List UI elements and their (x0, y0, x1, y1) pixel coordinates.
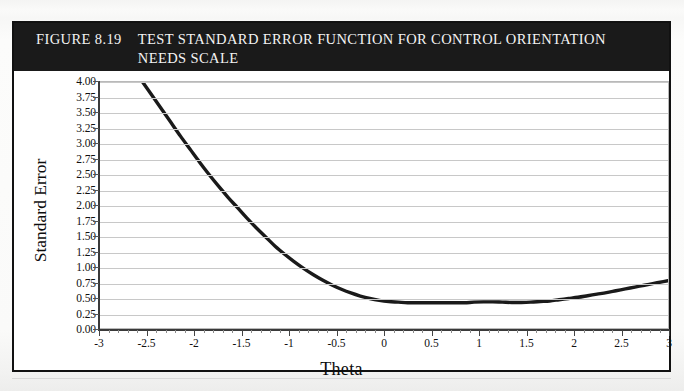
x-tick-minor (261, 330, 262, 333)
gridline-horizontal (100, 175, 668, 176)
x-tick-label: 0.5 (424, 337, 438, 349)
standard-error-curve (100, 82, 668, 328)
x-tick-mark (337, 330, 338, 336)
gridline-horizontal (100, 237, 668, 238)
gridline-horizontal (100, 268, 668, 269)
x-tick-minor (650, 330, 651, 333)
y-axis-tick-labels: 0.000.250.500.751.001.251.501.752.002.25… (54, 81, 96, 329)
y-tick-label: 0.50 (54, 292, 96, 304)
x-tick-minor (109, 330, 110, 333)
x-tick-minor (536, 330, 537, 333)
x-tick-minor (232, 330, 233, 333)
x-tick-minor (166, 330, 167, 333)
x-tick-minor (517, 330, 518, 333)
y-tick-mark (93, 236, 99, 237)
x-tick-minor (508, 330, 509, 333)
curve-path (143, 82, 668, 303)
figure-title: TEST STANDARD ERROR FUNCTION FOR CONTROL… (138, 30, 608, 68)
y-tick-label: 2.75 (54, 153, 96, 165)
y-tick-label: 3.75 (54, 91, 96, 103)
x-tick-label: 3 (666, 337, 672, 349)
x-tick-label: 2.5 (614, 337, 628, 349)
x-tick-minor (213, 330, 214, 333)
gridline-horizontal (100, 160, 668, 161)
y-tick-mark (93, 314, 99, 315)
x-axis-label: Theta (14, 359, 669, 380)
y-tick-label: 1.00 (54, 261, 96, 273)
x-tick-mark (384, 330, 385, 336)
chart-area: Standard Error 0.000.250.500.751.001.251… (14, 71, 669, 370)
y-tick-mark (93, 128, 99, 129)
y-tick-mark (93, 174, 99, 175)
x-tick-minor (137, 330, 138, 333)
y-tick-label: 3.50 (54, 106, 96, 118)
y-axis-label: Standard Error (28, 85, 54, 335)
gridline-horizontal (100, 113, 668, 114)
x-tick-minor (403, 330, 404, 333)
x-tick-label: -0.5 (327, 337, 345, 349)
plot-area (99, 81, 669, 329)
x-tick-mark (194, 330, 195, 336)
gridline-horizontal (100, 315, 668, 316)
x-tick-minor (356, 330, 357, 333)
y-tick-mark (93, 81, 99, 82)
x-tick-mark (432, 330, 433, 336)
gridline-horizontal (100, 129, 668, 130)
x-tick-mark (622, 330, 623, 336)
x-tick-minor (375, 330, 376, 333)
y-tick-label: 0.00 (54, 323, 96, 335)
x-tick-label: -1 (284, 337, 294, 349)
x-tick-minor (185, 330, 186, 333)
figure-number: FIGURE 8.19 (36, 30, 122, 48)
x-tick-minor (641, 330, 642, 333)
y-tick-label: 2.00 (54, 199, 96, 211)
y-tick-mark (93, 190, 99, 191)
x-tick-minor (299, 330, 300, 333)
x-tick-minor (128, 330, 129, 333)
x-tick-minor (251, 330, 252, 333)
x-tick-mark (669, 330, 670, 336)
gridline-horizontal (100, 299, 668, 300)
figure-root: FIGURE 8.19 TEST STANDARD ERROR FUNCTION… (0, 0, 684, 391)
x-tick-minor (565, 330, 566, 333)
gridline-horizontal (100, 82, 668, 83)
x-tick-minor (270, 330, 271, 333)
y-tick-mark (93, 205, 99, 206)
gridline-horizontal (100, 98, 668, 99)
y-tick-mark (93, 221, 99, 222)
x-tick-minor (612, 330, 613, 333)
y-tick-mark (93, 159, 99, 160)
y-tick-mark (93, 298, 99, 299)
x-tick-minor (327, 330, 328, 333)
x-tick-label: -2.5 (137, 337, 155, 349)
y-tick-label: 4.00 (54, 75, 96, 87)
x-tick-minor (660, 330, 661, 333)
x-tick-minor (451, 330, 452, 333)
figure-container: FIGURE 8.19 TEST STANDARD ERROR FUNCTION… (12, 21, 671, 372)
x-tick-mark (147, 330, 148, 336)
x-tick-minor (441, 330, 442, 333)
y-tick-label: 1.50 (54, 230, 96, 242)
x-tick-mark (574, 330, 575, 336)
gridline-horizontal (100, 144, 668, 145)
x-tick-minor (584, 330, 585, 333)
x-tick-label: -3 (94, 337, 104, 349)
x-tick-minor (413, 330, 414, 333)
y-tick-mark (93, 252, 99, 253)
x-tick-minor (631, 330, 632, 333)
y-axis-label-text: Standard Error (31, 158, 52, 262)
x-tick-label: 1.5 (519, 337, 533, 349)
x-tick-mark (99, 330, 100, 336)
gridline-horizontal (100, 222, 668, 223)
x-tick-minor (280, 330, 281, 333)
x-tick-label: -2 (189, 337, 199, 349)
x-tick-mark (479, 330, 480, 336)
x-tick-mark (289, 330, 290, 336)
x-tick-minor (204, 330, 205, 333)
y-tick-mark (93, 112, 99, 113)
page-rule (12, 378, 671, 379)
x-tick-minor (546, 330, 547, 333)
x-tick-minor (346, 330, 347, 333)
x-tick-minor (175, 330, 176, 333)
y-tick-label: 3.25 (54, 122, 96, 134)
